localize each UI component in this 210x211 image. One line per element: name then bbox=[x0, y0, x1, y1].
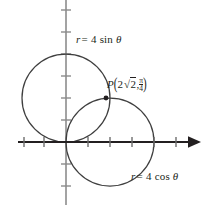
sin-label-value: 4 bbox=[91, 33, 97, 45]
y-axis bbox=[61, 0, 71, 205]
cos-label-value: 4 bbox=[146, 170, 152, 182]
point-r-radicand: 2 bbox=[130, 77, 137, 90]
sin-label-theta: θ bbox=[116, 33, 122, 45]
label-r-4-sin-theta: r = 4 sin θ bbox=[76, 33, 122, 45]
x-axis bbox=[18, 136, 201, 148]
cos-label-theta: θ bbox=[173, 170, 179, 182]
x-axis-arrowhead bbox=[188, 136, 201, 148]
cos-label-equals: = bbox=[137, 170, 143, 182]
point-open-paren: ( bbox=[114, 74, 118, 93]
polar-graph-figure: r = 4 sin θ r = 4 cos θ P(2√2,π4) bbox=[0, 0, 210, 211]
sin-label-equals: = bbox=[82, 33, 88, 45]
radical-icon: √2 bbox=[123, 78, 137, 90]
point-close-paren: ) bbox=[143, 74, 147, 93]
label-point-P: P(2√2,π4) bbox=[107, 77, 147, 94]
graph-canvas bbox=[0, 0, 210, 211]
sin-label-func: sin bbox=[100, 33, 113, 45]
intersection-point-dot bbox=[104, 96, 109, 101]
cos-label-func: cos bbox=[155, 170, 170, 182]
label-r-4-cos-theta: r = 4 cos θ bbox=[131, 170, 178, 182]
point-label-letter: P bbox=[107, 78, 114, 90]
